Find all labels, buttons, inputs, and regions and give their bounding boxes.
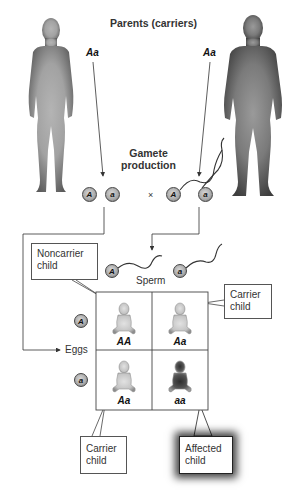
sperm-A-top: A — [166, 187, 181, 202]
cell-genotype-Aa-bottom: Aa — [96, 395, 152, 406]
egg-a-punnett: a — [74, 373, 88, 387]
sperm-a-punnett: a — [173, 264, 187, 278]
carrier-top-callout: Carrier child — [224, 284, 272, 319]
mother-genotype: Aa — [86, 47, 99, 58]
cell-genotype-AA: AA — [96, 336, 152, 347]
father-genotype: Aa — [203, 47, 216, 58]
cell-genotype-aa: aa — [152, 395, 208, 406]
sperm-label: Sperm — [136, 275, 165, 286]
egg-A-top: A — [82, 187, 97, 202]
parents-title: Parents (carriers) — [110, 17, 197, 29]
sperm-a-top: a — [198, 187, 213, 202]
carrier-bottom-callout: Carrier child — [80, 436, 127, 474]
gamete-production-label: Gamete production — [0, 147, 297, 171]
noncarrier-callout: Noncarrier child — [31, 243, 98, 280]
cross-symbol: × — [148, 190, 153, 200]
egg-a-top: a — [105, 187, 120, 202]
affected-callout: Affected child — [179, 436, 233, 474]
eggs-label: Eggs — [65, 344, 88, 355]
sperm-A-punnett: A — [105, 264, 119, 278]
cell-genotype-Aa-top: Aa — [152, 336, 208, 347]
egg-A-punnett: A — [74, 314, 88, 328]
sperm-connector — [152, 207, 199, 250]
